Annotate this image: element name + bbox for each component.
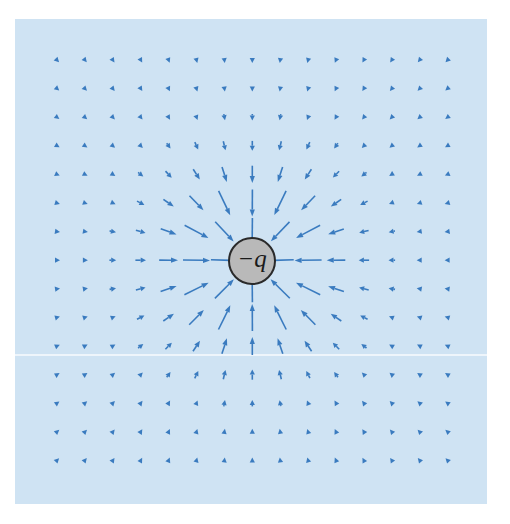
field-arrow-head-icon bbox=[328, 286, 335, 291]
field-arrow-head-icon bbox=[54, 430, 60, 435]
field-arrow-shaft bbox=[274, 260, 294, 261]
field-arrow-shaft bbox=[280, 375, 281, 379]
field-arrow-head-icon bbox=[54, 57, 59, 62]
field-arrow-head-icon bbox=[296, 283, 303, 288]
field-arrow-head-icon bbox=[82, 200, 88, 205]
field-arrow-head-icon bbox=[389, 344, 395, 349]
field-arrow-head-icon bbox=[250, 304, 255, 311]
field-arrow-head-icon bbox=[445, 430, 451, 435]
field-arrow-shaft bbox=[161, 229, 170, 232]
field-arrow-shaft bbox=[185, 225, 203, 234]
field-arrow-head-icon bbox=[82, 171, 88, 176]
field-arrow-head-icon bbox=[335, 401, 340, 407]
field-arrow-shaft bbox=[161, 288, 170, 291]
field-arrow-shaft bbox=[302, 225, 320, 234]
field-arrow-head-icon bbox=[359, 286, 365, 291]
field-arrow-head-icon bbox=[306, 114, 311, 120]
field-arrow-head-icon bbox=[222, 86, 227, 91]
field-arrow-head-icon bbox=[389, 258, 394, 263]
field-arrow-head-icon bbox=[250, 115, 255, 120]
field-arrow-head-icon bbox=[362, 458, 367, 464]
field-arrow-shaft bbox=[223, 375, 224, 379]
field-arrow-shaft bbox=[302, 286, 320, 295]
field-arrow-head-icon bbox=[362, 143, 367, 148]
field-arrow-shaft bbox=[306, 315, 316, 325]
field-arrow-head-icon bbox=[334, 57, 339, 63]
field-arrow-shaft bbox=[276, 222, 290, 236]
field-arrow-head-icon bbox=[82, 373, 88, 378]
field-arrow-head-icon bbox=[54, 373, 60, 378]
field-arrow-head-icon bbox=[222, 457, 227, 462]
field-arrow-head-icon bbox=[225, 208, 230, 215]
field-arrow-head-icon bbox=[362, 86, 367, 92]
field-arrow-head-icon bbox=[445, 85, 451, 90]
field-arrow-head-icon bbox=[193, 114, 198, 120]
field-arrow-shaft bbox=[211, 260, 231, 261]
field-arrow-head-icon bbox=[390, 458, 395, 464]
field-arrow-head-icon bbox=[54, 143, 60, 148]
field-arrow-shaft bbox=[280, 167, 283, 175]
field-arrow-head-icon bbox=[389, 287, 395, 292]
field-arrow-head-icon bbox=[362, 429, 367, 435]
field-arrow-head-icon bbox=[278, 370, 283, 376]
field-arrow-head-icon bbox=[138, 458, 143, 464]
field-arrow-head-icon bbox=[111, 258, 116, 263]
field-arrow-head-icon bbox=[222, 175, 227, 182]
field-arrow-shaft bbox=[222, 345, 225, 354]
field-arrow-head-icon bbox=[250, 210, 255, 217]
field-arrow-head-icon bbox=[165, 86, 170, 92]
field-arrow-head-icon bbox=[55, 258, 60, 263]
field-arrow-head-icon bbox=[165, 458, 170, 464]
field-arrow-shaft bbox=[163, 199, 168, 203]
field-arrow-shaft bbox=[219, 312, 228, 330]
field-arrow-head-icon bbox=[306, 458, 311, 464]
field-arrow-head-icon bbox=[306, 429, 311, 435]
field-arrow-head-icon bbox=[250, 429, 255, 434]
field-arrow-shaft bbox=[166, 171, 169, 174]
field-arrow-shaft bbox=[336, 171, 339, 174]
field-arrow-shaft bbox=[365, 318, 368, 320]
field-arrow-head-icon bbox=[390, 401, 395, 406]
field-arrow-shaft bbox=[223, 141, 224, 145]
field-arrow-head-icon bbox=[445, 200, 451, 205]
field-arrow-head-icon bbox=[362, 401, 367, 407]
field-arrow-head-icon bbox=[82, 57, 87, 63]
field-arrow-head-icon bbox=[193, 429, 198, 435]
field-arrow-head-icon bbox=[250, 337, 255, 344]
field-arrow-head-icon bbox=[277, 338, 282, 345]
field-arrow-shaft bbox=[193, 346, 197, 351]
field-arrow-shaft bbox=[336, 317, 341, 321]
field-arrow-head-icon bbox=[389, 229, 394, 234]
field-arrow-shaft bbox=[222, 167, 225, 175]
field-arrow-head-icon bbox=[193, 86, 198, 92]
field-arrow-head-icon bbox=[137, 86, 142, 92]
field-arrow-head-icon bbox=[334, 458, 339, 464]
field-arrow-shaft bbox=[195, 375, 196, 378]
field-arrow-head-icon bbox=[250, 146, 255, 151]
field-arrow-head-icon bbox=[194, 341, 200, 348]
field-arrow-shaft bbox=[309, 142, 310, 145]
field-arrow-head-icon bbox=[110, 401, 115, 406]
field-arrow-head-icon bbox=[110, 458, 115, 464]
field-arrow-shaft bbox=[219, 191, 228, 209]
field-arrow-shaft bbox=[276, 284, 290, 298]
field-arrow-head-icon bbox=[445, 373, 451, 378]
field-arrow-head-icon bbox=[305, 341, 311, 348]
field-arrow-head-icon bbox=[250, 457, 255, 462]
field-arrow-head-icon bbox=[141, 258, 146, 263]
field-arrow-head-icon bbox=[335, 429, 340, 435]
field-arrow-head-icon bbox=[169, 230, 177, 235]
field-arrow-head-icon bbox=[82, 345, 88, 350]
field-arrow-head-icon bbox=[445, 171, 451, 176]
field-arrow-head-icon bbox=[110, 430, 115, 436]
field-arrow-head-icon bbox=[417, 316, 423, 321]
field-arrow-head-icon bbox=[83, 258, 88, 263]
field-arrow-head-icon bbox=[335, 86, 340, 92]
field-arrow-shaft bbox=[337, 376, 338, 377]
field-arrow-head-icon bbox=[110, 171, 116, 176]
field-arrow-head-icon bbox=[110, 143, 116, 148]
field-arrow-head-icon bbox=[110, 85, 115, 91]
field-arrow-head-icon bbox=[418, 57, 423, 63]
field-arrow-head-icon bbox=[194, 57, 199, 63]
field-arrow-head-icon bbox=[250, 176, 255, 183]
